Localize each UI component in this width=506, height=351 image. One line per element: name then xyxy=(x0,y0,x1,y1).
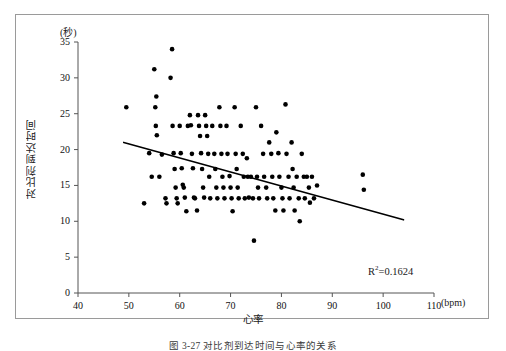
scatter-point xyxy=(299,152,304,157)
scatter-point xyxy=(191,166,196,171)
scatter-point xyxy=(227,174,232,179)
scatter-point xyxy=(200,167,205,172)
scatter-point xyxy=(189,123,194,128)
scatter-point xyxy=(207,175,212,180)
scatter-point xyxy=(284,152,289,157)
scatter-point xyxy=(219,152,224,157)
scatter-point xyxy=(178,151,183,156)
scatter-point xyxy=(147,151,152,156)
plot-svg xyxy=(0,0,506,351)
scatter-point xyxy=(204,124,209,129)
scatter-point xyxy=(220,175,225,180)
scatter-point xyxy=(174,196,179,201)
scatter-point xyxy=(240,152,245,157)
y-axis-tick-label: 30 xyxy=(46,73,70,83)
scatter-point xyxy=(168,76,173,81)
scatter-point xyxy=(195,208,200,213)
scatter-point xyxy=(199,151,204,156)
scatter-point xyxy=(236,196,241,201)
scatter-point xyxy=(254,105,259,110)
x-axis-tick-label: 90 xyxy=(327,301,337,311)
x-axis-tick-label: 80 xyxy=(276,301,286,311)
scatter-point xyxy=(124,105,129,110)
scatter-point xyxy=(292,208,297,213)
scatter-point xyxy=(245,156,250,161)
x-axis-unit-label: (bpm) xyxy=(441,297,465,308)
scatter-point xyxy=(305,175,310,180)
y-axis-ticks xyxy=(74,42,78,293)
scatter-point xyxy=(257,196,262,201)
scatter-point xyxy=(267,140,272,145)
scatter-point xyxy=(289,140,294,145)
scatter-point xyxy=(225,152,230,157)
scatter-point xyxy=(286,175,291,180)
scatter-point xyxy=(198,134,203,139)
scatter-point xyxy=(251,196,256,201)
scatter-point xyxy=(202,195,207,200)
scatter-point xyxy=(361,172,366,177)
scatter-point xyxy=(265,196,270,201)
figure-caption: 图 3-27 对比剂到达时间与心率的关系 xyxy=(0,338,506,351)
scatter-point xyxy=(262,175,267,180)
scatter-point xyxy=(218,124,223,129)
scatter-point xyxy=(210,124,215,129)
scatter-point xyxy=(197,124,202,129)
scatter-point xyxy=(281,208,286,213)
scatter-point xyxy=(273,208,278,213)
scatter-point xyxy=(287,196,292,201)
scatter-point xyxy=(155,133,160,138)
scatter-point xyxy=(184,209,189,214)
y-axis-tick-label: 5 xyxy=(46,252,70,262)
scatter-point xyxy=(294,175,299,180)
y-axis-unit-label: (秒) xyxy=(60,24,77,39)
scatter-point xyxy=(264,185,269,190)
scatter-point xyxy=(171,151,176,156)
scatter-point xyxy=(235,185,240,190)
scatter-point xyxy=(163,196,168,201)
scatter-point xyxy=(154,124,159,129)
scatter-point xyxy=(228,185,233,190)
scatter-point xyxy=(274,130,279,135)
scatter-plot: 05101520253035 405060708090100110 (秒) (b… xyxy=(0,0,506,351)
scatter-point xyxy=(206,152,211,157)
scatter-point xyxy=(212,152,217,157)
x-axis-tick-label: 60 xyxy=(175,301,185,311)
scatter-point xyxy=(315,183,320,188)
scatter-point xyxy=(142,201,147,206)
scatter-point xyxy=(277,175,282,180)
scatter-point xyxy=(252,238,257,243)
x-axis-title: 心率 xyxy=(0,311,506,326)
scatter-point xyxy=(208,196,213,201)
scatter-point xyxy=(276,151,281,156)
scatter-point xyxy=(238,124,243,129)
scatter-point xyxy=(259,124,264,129)
scatter-point xyxy=(270,175,275,180)
scatter-point xyxy=(203,113,208,118)
scatter-point xyxy=(230,209,235,214)
x-axis-tick-label: 50 xyxy=(124,301,134,311)
scatter-point xyxy=(179,166,184,171)
scatter-point xyxy=(181,185,186,190)
scatter-point xyxy=(175,201,180,206)
scatter-point xyxy=(296,196,301,201)
r-squared-value: =0.1624 xyxy=(379,266,414,277)
scatter-point xyxy=(153,105,158,110)
y-axis-tick-label: 25 xyxy=(46,109,70,119)
scatter-point xyxy=(214,185,219,190)
scatter-point xyxy=(149,175,154,180)
scatter-point xyxy=(280,196,285,201)
scatter-point xyxy=(222,196,227,201)
r-squared-symbol: R xyxy=(368,266,375,277)
scatter-point xyxy=(183,195,188,200)
scatter-point xyxy=(307,185,312,190)
y-axis-tick-label: 10 xyxy=(46,216,70,226)
scatter-point xyxy=(290,167,295,172)
scatter-point xyxy=(177,124,182,129)
scatter-point xyxy=(312,196,317,201)
x-axis-tick-label: 70 xyxy=(226,301,236,311)
scatter-point xyxy=(233,152,238,157)
scatter-point xyxy=(172,167,177,172)
scatter-point xyxy=(247,195,252,200)
x-axis-tick-label: 100 xyxy=(376,301,391,311)
scatter-point xyxy=(170,47,175,52)
